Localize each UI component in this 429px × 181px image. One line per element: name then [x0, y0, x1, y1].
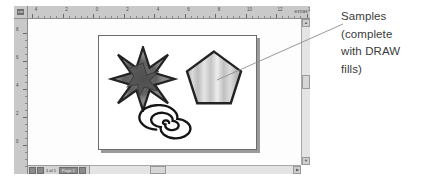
pentagon-shape[interactable] — [184, 48, 244, 108]
ruler-tick-minor — [264, 16, 265, 18]
ruler-tick-minor — [191, 16, 192, 18]
ruler-tick-label: 0 — [96, 7, 99, 12]
ruler-tick-minor — [252, 16, 253, 18]
vertical-ruler[interactable]: 86420 — [14, 19, 28, 174]
ruler-tick-label: 4 — [157, 7, 160, 12]
ruler-tick-minor — [25, 54, 27, 55]
ruler-tick-minor — [75, 16, 76, 18]
ruler-tick-major — [185, 14, 186, 18]
ruler-tick-minor — [38, 16, 39, 18]
ruler-tick-label: 2 — [126, 7, 129, 12]
ruler-tick-major — [93, 14, 94, 18]
ruler-tick-minor — [227, 16, 228, 18]
ruler-tick-label: 12 — [277, 7, 282, 12]
vertical-scrollbar[interactable]: ▲ ▼ — [301, 19, 310, 165]
ruler-tick-major — [23, 33, 27, 34]
ruler-tick-major — [23, 61, 27, 62]
ruler-tick-minor — [50, 16, 51, 18]
ruler-tick-minor — [25, 159, 27, 160]
ruler-tick-label: 4 — [35, 7, 38, 12]
ruler-tick-minor — [111, 16, 112, 18]
ruler-tick-minor — [25, 166, 27, 167]
ruler-tick-minor — [209, 16, 210, 18]
drawing-page[interactable] — [98, 35, 257, 150]
ruler-tick-major — [276, 14, 277, 18]
horizontal-ruler[interactable]: extras 4202468101214 — [28, 6, 310, 19]
ruler-tick-minor — [294, 16, 295, 18]
next-page-button[interactable] — [79, 167, 86, 174]
ruler-tick-minor — [25, 40, 27, 41]
ruler-tick-minor — [300, 16, 301, 18]
drawing-workspace[interactable] — [28, 19, 301, 165]
ruler-tick-label: 6 — [187, 7, 190, 12]
annotation-line-3: with DRAW — [341, 43, 427, 61]
ruler-tick-label: 8 — [218, 7, 221, 12]
ruler-tick-minor — [25, 82, 27, 83]
annotation-line-4: fills) — [341, 61, 427, 79]
ruler-tick-major — [154, 14, 155, 18]
ruler-tick-major — [246, 14, 247, 18]
spiral-shape[interactable] — [137, 104, 199, 142]
first-page-button[interactable] — [29, 167, 36, 174]
ruler-tick-label: 8 — [16, 27, 19, 32]
ruler-tick-major — [23, 145, 27, 146]
ruler-tick-minor — [239, 16, 240, 18]
ruler-tick-major — [32, 14, 33, 18]
ruler-tick-minor — [25, 96, 27, 97]
ruler-tick-minor — [130, 16, 131, 18]
ruler-tick-minor — [25, 152, 27, 153]
ruler-tick-minor — [25, 124, 27, 125]
annotation-line-1: Samples — [341, 8, 427, 26]
ruler-tick-label: 14 — [308, 7, 310, 12]
ruler-tick-major — [23, 117, 27, 118]
ruler-tick-minor — [25, 110, 27, 111]
ruler-tick-minor — [25, 68, 27, 69]
ruler-tick-minor — [258, 16, 259, 18]
ruler-tick-minor — [25, 138, 27, 139]
ruler-tick-minor — [270, 16, 271, 18]
ruler-tick-major — [124, 14, 125, 18]
ruler-tick-major — [307, 14, 308, 18]
ruler-tick-minor — [172, 16, 173, 18]
ruler-tick-minor — [288, 16, 289, 18]
ruler-tick-minor — [25, 131, 27, 132]
ruler-tick-minor — [69, 16, 70, 18]
ruler-origin-box[interactable]: cm — [14, 6, 28, 19]
ruler-tick-minor — [142, 16, 143, 18]
scroll-right-arrow-icon[interactable]: ▶ — [293, 166, 301, 174]
ruler-tick-minor — [25, 47, 27, 48]
ruler-tick-label: 4 — [16, 83, 19, 88]
ruler-tick-major — [63, 14, 64, 18]
page-navigator[interactable]: 1 of 1 Page 1 — [28, 165, 90, 174]
ruler-tick-label: 2 — [65, 7, 68, 12]
ruler-tick-minor — [87, 16, 88, 18]
ruler-tick-minor — [148, 16, 149, 18]
annotation-callout: Samples (complete with DRAW fills) — [341, 8, 427, 78]
ruler-tick-minor — [25, 75, 27, 76]
horizontal-scrollbar-thumb[interactable] — [150, 166, 166, 174]
page-tab[interactable]: Page 1 — [59, 167, 78, 174]
ruler-tick-minor — [233, 16, 234, 18]
ruler-tick-minor — [99, 16, 100, 18]
ruler-tick-minor — [81, 16, 82, 18]
ruler-tick-minor — [178, 16, 179, 18]
vertical-scrollbar-thumb[interactable] — [302, 75, 310, 89]
scroll-down-arrow-icon[interactable]: ▼ — [302, 157, 310, 165]
ruler-tick-label: 0 — [16, 139, 19, 144]
ruler-tick-minor — [197, 16, 198, 18]
ruler-unit-label: cm — [17, 9, 24, 15]
ruler-tick-minor — [56, 16, 57, 18]
previous-page-button[interactable] — [37, 167, 44, 174]
ruler-tick-minor — [203, 16, 204, 18]
ruler-tick-major — [23, 89, 27, 90]
ruler-tick-minor — [166, 16, 167, 18]
ruler-tick-minor — [44, 16, 45, 18]
scroll-up-arrow-icon[interactable]: ▲ — [302, 19, 310, 27]
ruler-tick-minor — [105, 16, 106, 18]
ruler-tick-minor — [25, 103, 27, 104]
ruler-tick-label: 10 — [247, 7, 252, 12]
ruler-tick-minor — [117, 16, 118, 18]
star-shape[interactable] — [106, 46, 180, 112]
ruler-tick-minor — [136, 16, 137, 18]
ruler-tick-minor — [221, 16, 222, 18]
